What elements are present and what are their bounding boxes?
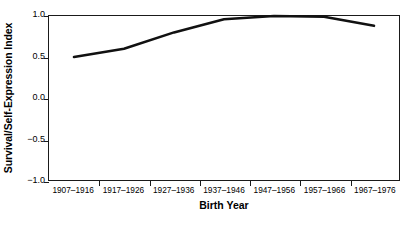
y-tick-mark: [44, 182, 49, 183]
y-tick-label: −0.5: [19, 135, 45, 144]
x-tick-label: 1907–1916: [48, 185, 98, 195]
y-tick-mark: [44, 99, 49, 100]
y-tick-mark: [44, 16, 49, 17]
y-tick-mark: [44, 58, 49, 59]
data-line-canvas: [49, 16, 399, 180]
y-axis-title: Survival/Self-Expression Index: [0, 0, 16, 196]
x-tick-label: 1957–1966: [299, 185, 349, 195]
x-tick-label: 1917–1926: [98, 185, 148, 195]
y-tick-label: −1.0: [19, 176, 45, 185]
y-tick-label: 0.5: [19, 52, 45, 61]
x-tick-label: 1937–1946: [199, 185, 249, 195]
x-tick-label: 1927–1936: [149, 185, 199, 195]
data-series-line: [74, 16, 374, 57]
plot-area: [48, 15, 400, 181]
y-axis-tick-labels: 1.00.50.0−0.5−1.0: [17, 0, 45, 225]
x-tick-label: 1967–1976: [350, 185, 400, 195]
y-tick-mark: [44, 141, 49, 142]
y-tick-label: 0.0: [19, 93, 45, 102]
chart-figure: Survival/Self-Expression Index 1.00.50.0…: [0, 0, 420, 225]
y-axis-title-text: Survival/Self-Expression Index: [2, 23, 14, 173]
x-axis-title: Birth Year: [48, 199, 400, 211]
y-tick-label: 1.0: [19, 10, 45, 19]
x-axis-tick-labels: 1907–19161917–19261927–19361937–19461947…: [48, 185, 400, 199]
x-tick-label: 1947–1956: [249, 185, 299, 195]
